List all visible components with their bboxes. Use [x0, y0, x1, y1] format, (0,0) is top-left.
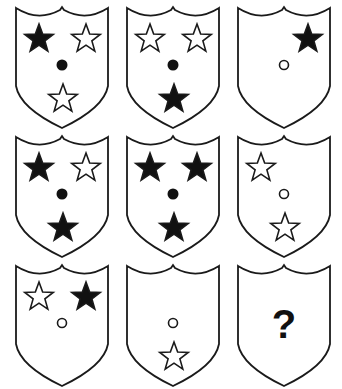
hollow-dot-icon	[280, 61, 289, 70]
shield-puzzle-grid: ?	[0, 0, 342, 389]
filled-dot-icon	[57, 60, 68, 71]
shield-cell-r0-c1	[125, 4, 221, 130]
shield-cell-r1-c1	[125, 133, 221, 259]
filled-dot-icon	[57, 189, 68, 200]
hollow-dot-icon	[169, 319, 178, 328]
shield-cell-r2-c1	[125, 262, 221, 388]
shield-cell-r0-c0	[14, 4, 110, 130]
filled-dot-icon	[168, 189, 179, 200]
hollow-dot-icon	[58, 319, 67, 328]
question-mark: ?	[272, 302, 296, 346]
shield-cell-r1-c0	[14, 133, 110, 259]
shield-cell-r2-c2: ?	[236, 262, 332, 388]
shield-cell-r1-c2	[236, 133, 332, 259]
shield-cell-r2-c0	[14, 262, 110, 388]
filled-dot-icon	[168, 60, 179, 71]
shield-cell-r0-c2	[236, 4, 332, 130]
hollow-dot-icon	[280, 190, 289, 199]
